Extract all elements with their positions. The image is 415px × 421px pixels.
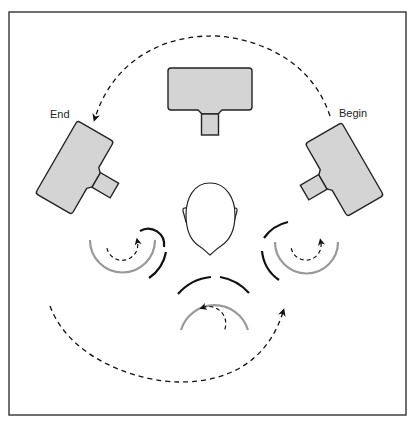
- begin-label: Begin: [339, 107, 367, 119]
- detector-rotation-diagram: End Begin: [0, 0, 415, 421]
- end-label: End: [50, 108, 70, 120]
